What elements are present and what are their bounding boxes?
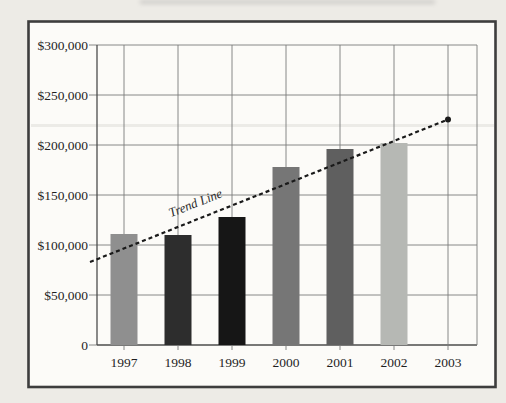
bar-2001 xyxy=(327,149,354,345)
scan-artifact-streak xyxy=(31,124,494,127)
bar-1997 xyxy=(111,234,138,345)
bar-1999 xyxy=(219,217,246,345)
x-axis-label-1999: 1999 xyxy=(219,355,246,370)
x-axis-label-1997: 1997 xyxy=(111,355,138,370)
trend-endpoint-dot xyxy=(445,117,451,123)
y-axis-label-250000: $250,000 xyxy=(37,88,88,103)
x-axis-label-2002: 2002 xyxy=(381,355,408,370)
x-axis-label-2000: 2000 xyxy=(273,355,300,370)
bar-2000 xyxy=(273,167,300,345)
y-axis-label-200000: $200,000 xyxy=(37,138,88,153)
bar-2002 xyxy=(381,143,408,345)
x-axis-label-1998: 1998 xyxy=(165,355,192,370)
scanned-figure-page: $300,000$250,000$200,000$150,000$100,000… xyxy=(0,0,506,403)
y-axis-label-150000: $150,000 xyxy=(37,188,88,203)
y-axis-label-50000: $50,000 xyxy=(44,288,88,303)
x-axis-label-2001: 2001 xyxy=(327,355,354,370)
bar-1998 xyxy=(165,235,192,345)
bar-chart-svg: $300,000$250,000$200,000$150,000$100,000… xyxy=(0,0,506,403)
chart-frame xyxy=(29,22,496,388)
x-axis-label-2003: 2003 xyxy=(435,355,462,370)
y-axis-label-100000: $100,000 xyxy=(37,238,88,253)
y-axis-label-300000: $300,000 xyxy=(37,38,88,53)
y-axis-label-0: 0 xyxy=(81,338,88,353)
